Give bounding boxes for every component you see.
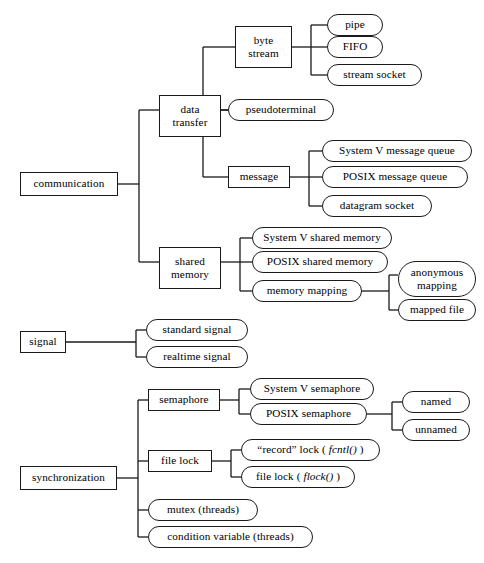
node-file-lock[interactable]: file lock	[148, 450, 212, 472]
node-standard-signal-label: standard signal	[161, 324, 234, 335]
node-synchronization-label: synchronization	[30, 472, 107, 483]
node-realtime-signal-label: realtime signal	[161, 351, 233, 362]
node-stream-socket[interactable]: stream socket	[327, 64, 422, 86]
node-semaphore[interactable]: semaphore	[148, 389, 220, 411]
node-realtime-signal[interactable]: realtime signal	[146, 346, 248, 368]
node-sysv-semaphore[interactable]: System V semaphore	[250, 378, 374, 400]
node-sysv-semaphore-label: System V semaphore	[262, 383, 362, 394]
node-communication[interactable]: communication	[20, 172, 118, 196]
node-anonymous-mapping-label-line1: anonymous	[409, 266, 465, 279]
node-shared-memory[interactable]: shared memory	[159, 247, 221, 289]
node-flock-label-suffix: )	[333, 470, 340, 482]
node-anonymous-mapping[interactable]: anonymous mapping	[398, 261, 476, 297]
node-posix-semaphore-label: POSIX semaphore	[264, 408, 353, 419]
node-fifo-label: FIFO	[341, 41, 370, 52]
node-pipe[interactable]: pipe	[327, 14, 383, 36]
node-memory-mapping-label: memory mapping	[265, 285, 350, 296]
node-anonymous-mapping-label-line2: mapping	[415, 279, 459, 292]
node-data-transfer[interactable]: data transfer	[159, 95, 221, 137]
node-pseudoterminal-label: pseudoterminal	[244, 104, 318, 115]
node-flock-function: flock()	[303, 470, 333, 482]
node-condition-variable-threads[interactable]: condition variable (threads)	[148, 526, 313, 548]
node-posix-semaphore[interactable]: POSIX semaphore	[250, 403, 367, 425]
node-data-transfer-label-line1: data	[178, 103, 201, 116]
node-record-lock[interactable]: “record” lock ( fcntl() )	[241, 439, 380, 461]
node-named[interactable]: named	[402, 391, 470, 413]
node-flock-label-prefix: file lock (	[256, 470, 304, 482]
node-fifo[interactable]: FIFO	[327, 36, 383, 58]
node-posix-message-queue-label: POSIX message queue	[341, 171, 449, 182]
node-named-label: named	[419, 396, 453, 407]
node-byte-stream-label-line2: stream	[246, 47, 280, 60]
node-byte-stream-label-line1: byte	[252, 34, 276, 47]
node-signal-label: signal	[27, 336, 58, 347]
node-signal[interactable]: signal	[20, 331, 66, 353]
node-mapped-file-label: mapped file	[408, 304, 466, 315]
node-mutex-threads-label: mutex (threads)	[165, 504, 241, 515]
node-pipe-label: pipe	[343, 19, 367, 30]
node-synchronization[interactable]: synchronization	[20, 466, 117, 490]
node-datagram-socket-label: datagram socket	[338, 200, 417, 211]
node-posix-shared-memory[interactable]: POSIX shared memory	[252, 251, 388, 273]
node-record-lock-label-suffix: )	[357, 443, 364, 455]
node-stream-socket-label: stream socket	[341, 69, 408, 80]
node-standard-signal[interactable]: standard signal	[146, 319, 248, 341]
node-shared-memory-label-line1: shared	[173, 255, 207, 268]
node-pseudoterminal[interactable]: pseudoterminal	[228, 99, 334, 121]
node-shared-memory-label-line2: memory	[169, 268, 211, 281]
node-message-label: message	[238, 171, 281, 182]
node-flock[interactable]: file lock ( flock() )	[241, 466, 355, 488]
node-message[interactable]: message	[228, 166, 290, 188]
node-sysv-message-queue[interactable]: System V message queue	[322, 140, 472, 162]
node-sysv-shared-memory-label: System V shared memory	[261, 232, 383, 243]
node-sysv-shared-memory[interactable]: System V shared memory	[252, 227, 392, 249]
node-unnamed-label: unnamed	[413, 424, 459, 435]
node-file-lock-label: file lock	[159, 455, 201, 466]
node-mutex-threads[interactable]: mutex (threads)	[148, 499, 258, 521]
node-data-transfer-label-line2: transfer	[171, 116, 210, 129]
node-record-lock-function: fcntl()	[329, 443, 357, 455]
ipc-tree-diagram: communication data transfer byte stream …	[0, 0, 484, 563]
node-record-lock-label-prefix: “record” lock (	[257, 443, 328, 455]
node-mapped-file[interactable]: mapped file	[398, 299, 476, 321]
node-condition-variable-threads-label: condition variable (threads)	[165, 531, 295, 542]
node-memory-mapping[interactable]: memory mapping	[252, 280, 362, 302]
node-posix-message-queue[interactable]: POSIX message queue	[322, 166, 468, 188]
node-communication-label: communication	[32, 178, 107, 189]
node-datagram-socket[interactable]: datagram socket	[322, 195, 432, 217]
node-sysv-message-queue-label: System V message queue	[337, 145, 457, 156]
node-semaphore-label: semaphore	[157, 394, 210, 405]
node-unnamed[interactable]: unnamed	[402, 419, 470, 441]
node-byte-stream[interactable]: byte stream	[235, 26, 292, 68]
node-posix-shared-memory-label: POSIX shared memory	[265, 256, 375, 267]
